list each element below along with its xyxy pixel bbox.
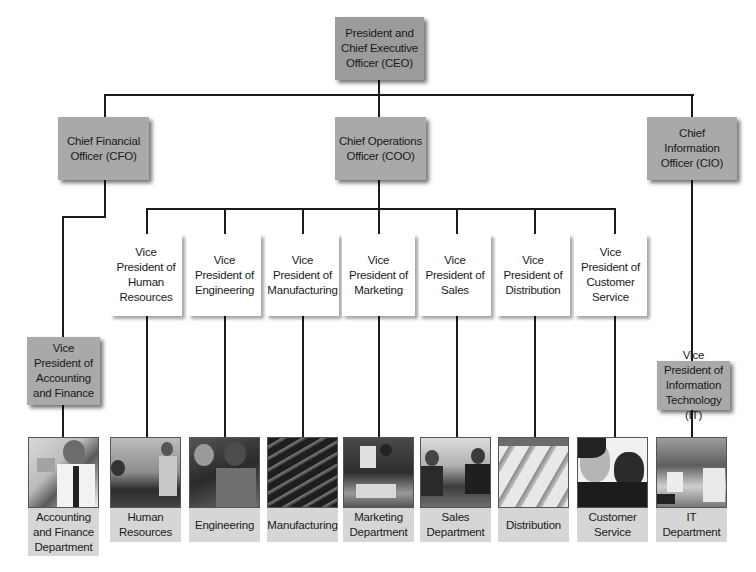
cfo-box: Chief Financial Officer (CFO) xyxy=(58,117,149,180)
dept-label: Customer Service xyxy=(577,508,648,542)
dept-it: IT Department xyxy=(656,437,727,542)
vp-marketing-box: Vice President of Marketing xyxy=(342,234,415,316)
vp-sales-down xyxy=(456,316,458,438)
dept-label: IT Department xyxy=(656,508,727,542)
vp-label: Vice President of Distribution xyxy=(499,253,567,298)
cio-box: Chief Information Officer (CIO) xyxy=(647,117,737,180)
coo-down-connector xyxy=(378,180,380,210)
cfo-jog-connector xyxy=(62,216,106,218)
vp-mfg-up xyxy=(302,208,304,234)
vp-dist-up xyxy=(534,208,536,234)
dept-sales: Sales Department xyxy=(420,437,491,542)
accounting-dept-connector xyxy=(62,405,64,438)
vp-human-resources-box: Vice President of Human Resources xyxy=(110,234,182,316)
warehouse-photo xyxy=(498,437,569,508)
dept-customer-service: Customer Service xyxy=(577,437,648,542)
cio-label: Chief Information Officer (CIO) xyxy=(650,126,734,171)
vp-sales-up xyxy=(456,208,458,234)
vp-label: Vice President of Marketing xyxy=(345,253,412,298)
vp-label: Vice President of Customer Service xyxy=(577,245,644,305)
dept-label: Sales Department xyxy=(420,508,491,542)
vp-mkt-up xyxy=(378,208,380,234)
vp-eng-down xyxy=(224,316,226,438)
vp-label: Vice President of Manufacturing xyxy=(267,253,337,298)
coo-up-connector xyxy=(378,94,380,118)
vp-it-label: Vice President of Information Technology… xyxy=(660,348,727,423)
cfo-label: Chief Financial Officer (CFO) xyxy=(61,134,146,164)
accounting-vp-up-connector xyxy=(62,216,64,338)
vp-accounting-label: Vice President of Accounting and Finance xyxy=(30,341,97,401)
vp-accounting-box: Vice President of Accounting and Finance xyxy=(27,337,100,405)
meeting-handshake-photo xyxy=(110,437,181,508)
factory-floor-photo xyxy=(267,437,338,508)
vp-mkt-down xyxy=(378,316,380,438)
vp-eng-up xyxy=(224,208,226,234)
dept-manufacturing: Manufacturing xyxy=(267,437,338,542)
vp-cs-down xyxy=(614,316,616,438)
engineers-photo xyxy=(189,437,260,508)
dept-engineering: Engineering xyxy=(189,437,260,542)
vp-hr-down xyxy=(146,316,148,438)
coo-label: Chief Operations Officer (COO) xyxy=(338,134,423,164)
executive-horizontal-connector xyxy=(104,94,694,96)
vp-engineering-box: Vice President of Engineering xyxy=(188,234,261,316)
ceo-box: President and Chief Executive Officer (C… xyxy=(335,17,424,80)
dept-label: Manufacturing xyxy=(267,508,338,542)
office-worker-photo xyxy=(28,437,99,508)
dept-human-resources: Human Resources xyxy=(110,437,181,542)
vp-hr-up xyxy=(146,208,148,234)
vp-label: Vice President of Sales xyxy=(422,253,488,298)
cfo-down-connector xyxy=(104,180,106,218)
vp-cs-up xyxy=(614,208,616,234)
dept-marketing: Marketing Department xyxy=(343,437,414,542)
vp-sales-box: Vice President of Sales xyxy=(419,234,491,316)
dept-label: Human Resources xyxy=(110,508,181,542)
dept-label: Marketing Department xyxy=(343,508,414,542)
headset-agents-photo xyxy=(577,437,648,508)
computer-room-photo xyxy=(656,437,727,508)
dept-label: Accounting and Finance Department xyxy=(28,508,99,556)
vp-dist-down xyxy=(534,316,536,438)
coo-horizontal-connector xyxy=(146,208,616,210)
vp-label: Vice President of Engineering xyxy=(191,253,258,298)
vp-mfg-down xyxy=(302,316,304,438)
cio-up-connector xyxy=(691,94,693,118)
presentation-photo xyxy=(343,437,414,508)
vp-it-box: Vice President of Information Technology… xyxy=(657,361,730,410)
dept-label: Engineering xyxy=(189,508,260,542)
ceo-label: President and Chief Executive Officer (C… xyxy=(338,26,421,71)
vp-label: Vice President of Human Resources xyxy=(113,245,179,305)
vp-distribution-box: Vice President of Distribution xyxy=(496,234,570,316)
coo-box: Chief Operations Officer (COO) xyxy=(335,117,426,180)
cio-down-connector xyxy=(691,180,693,362)
dept-label: Distribution xyxy=(498,508,569,542)
vp-manufacturing-box: Vice President of Manufacturing xyxy=(266,234,339,316)
dept-accounting: Accounting and Finance Department xyxy=(28,437,99,556)
sales-handshake-photo xyxy=(420,437,491,508)
dept-distribution: Distribution xyxy=(498,437,569,542)
vp-customer-service-box: Vice President of Customer Service xyxy=(574,234,647,316)
cfo-up-connector xyxy=(104,94,106,118)
